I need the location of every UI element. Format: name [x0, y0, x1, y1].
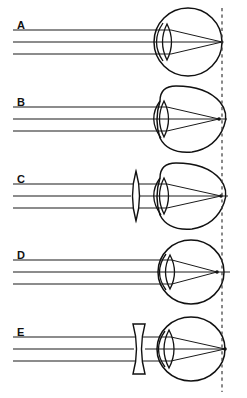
eye-refraction-figure: A B	[0, 0, 247, 398]
incoming-rays-b	[13, 107, 167, 131]
focal-point-e	[223, 347, 227, 351]
panel-label-e: E	[17, 326, 24, 338]
panel-label-b: B	[17, 96, 25, 108]
refracted-rays-e	[167, 337, 225, 361]
spectacle-lens-concave-e	[133, 324, 145, 374]
panel-e: E	[13, 317, 227, 381]
refracted-rays-b	[163, 107, 219, 131]
panel-c: C	[13, 163, 228, 229]
panel-a: A	[13, 8, 224, 76]
refracted-rays-c	[163, 184, 221, 208]
incoming-rays-e	[13, 337, 136, 361]
refracted-rays-d	[168, 260, 217, 284]
figure-canvas: A B	[0, 0, 247, 398]
panel-label-d: D	[17, 249, 25, 261]
panel-d: D	[13, 240, 230, 304]
incoming-rays-d	[13, 260, 172, 284]
panel-b: B	[13, 86, 227, 152]
rays-between-lens-and-eye-c	[139, 184, 167, 208]
refracted-rays-a	[167, 30, 222, 54]
incoming-rays-a	[13, 30, 171, 54]
incoming-rays-c	[13, 184, 133, 208]
spectacle-lens-convex-c	[133, 171, 140, 221]
panel-label-c: C	[17, 173, 25, 185]
panel-label-a: A	[17, 19, 25, 31]
